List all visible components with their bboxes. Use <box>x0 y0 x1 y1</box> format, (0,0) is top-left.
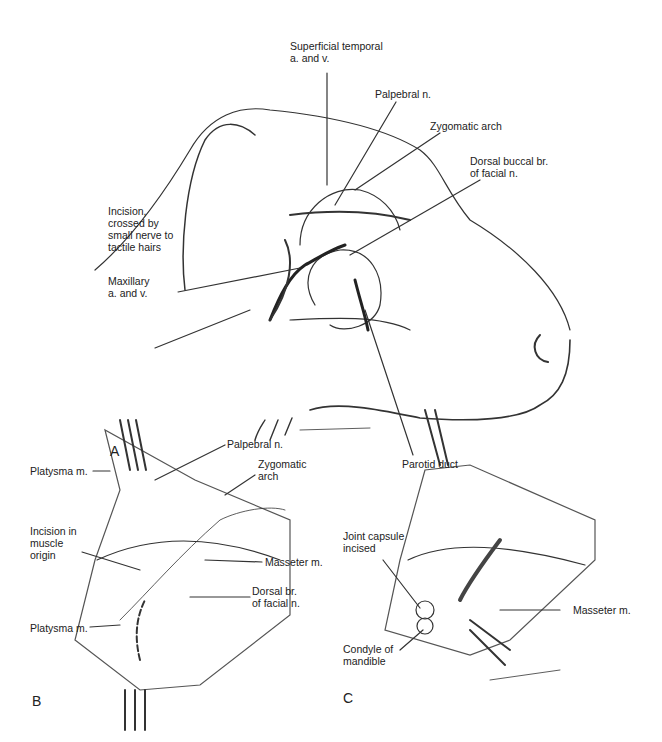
label-parotid-duct: Parotid duct <box>402 458 458 470</box>
label-palpebral-n: Palpebral n. <box>375 88 431 100</box>
panel-letter-a: A <box>110 443 119 459</box>
label-masseter-b: Masseter m. <box>265 556 323 568</box>
label-maxillary: Maxillary a. and v. <box>108 275 149 299</box>
label-palpebral-n-b: Palpebral n. <box>227 438 283 450</box>
panel-letter-c: C <box>343 690 353 706</box>
label-dorsal-buccal: Dorsal buccal br. of facial n. <box>470 155 548 179</box>
label-dorsal-br: Dorsal br. of facial n. <box>252 585 300 609</box>
label-incision: Incision, crossed by small nerve to tact… <box>108 205 173 253</box>
label-platysma-bottom: Platysma m. <box>30 622 88 634</box>
label-incision-muscle-origin: Incision in muscle origin <box>30 525 77 561</box>
label-joint-capsule: Joint capsule incised <box>343 530 404 554</box>
panel-letter-b: B <box>32 693 41 709</box>
label-masseter-c: Masseter m. <box>573 604 631 616</box>
label-zygomatic-arch: Zygomatic arch <box>430 120 502 132</box>
label-condyle: Condyle of mandible <box>343 643 393 667</box>
label-superficial-temporal: Superficial temporal a. and v. <box>290 40 383 64</box>
label-platysma-top: Platysma m. <box>30 465 88 477</box>
anatomical-illustration <box>0 0 662 742</box>
label-zygomatic-arch-b: Zygomatic arch <box>258 458 306 482</box>
